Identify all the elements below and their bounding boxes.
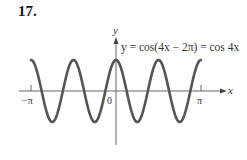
equation-label: y = cos(4x − 2π) = cos 4x bbox=[121, 42, 239, 54]
x-axis-arrow-icon bbox=[220, 89, 227, 94]
tick-label-zero: 0 bbox=[107, 96, 112, 106]
y-axis-label: y bbox=[113, 25, 118, 36]
tick-label-pi: π bbox=[197, 96, 202, 106]
y-axis-arrow-icon bbox=[114, 37, 119, 44]
tick-label-neg-pi: −π bbox=[22, 96, 33, 106]
x-axis-label: x bbox=[228, 85, 233, 96]
cosine-graph bbox=[0, 0, 247, 160]
